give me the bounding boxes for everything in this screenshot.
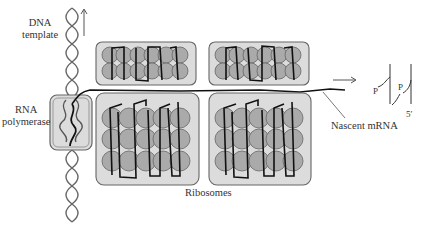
ribosome-top-right — [209, 42, 309, 85]
right-arrow-icon — [333, 77, 356, 83]
up-arrow-icon — [81, 9, 87, 36]
ribosomes-label: Ribosomes — [185, 187, 232, 199]
dna-label-line2: template — [22, 29, 58, 41]
ribosome-bottom-right — [209, 93, 311, 185]
ribosome-bottom-left — [96, 93, 199, 185]
phosphate-label-2: P — [398, 81, 403, 93]
five-prime-label: 5′ — [406, 108, 412, 120]
mrna-leader-line — [323, 92, 345, 118]
triphosphate-tail — [378, 64, 411, 105]
ribosome-top-left — [96, 42, 196, 85]
rna-polymerase — [50, 95, 92, 150]
rna-polymerase-label: RNA polymerase — [2, 104, 50, 128]
phosphate-label-1: P — [373, 85, 378, 97]
rna-label-line2: polymerase — [2, 116, 50, 128]
nascent-mrna-label: Nascent mRNA — [331, 120, 398, 132]
dna-template-label: DNA template — [22, 17, 58, 41]
rna-label-line1: RNA — [2, 104, 50, 116]
dna-label-line1: DNA — [22, 17, 58, 29]
